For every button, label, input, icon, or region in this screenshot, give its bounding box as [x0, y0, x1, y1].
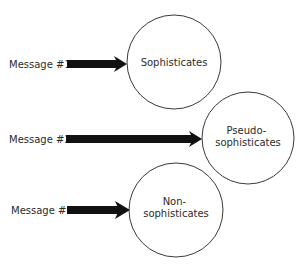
audience-diagram: Sophisticates Pseudo- sophisticates Non-…: [0, 0, 303, 265]
message-arrow-1: [67, 56, 127, 72]
arrow-shaft: [67, 60, 118, 68]
arrow-shaft: [66, 135, 194, 143]
message-label-3: Message #3: [11, 205, 73, 216]
audience-label-sophisticates: Sophisticates: [141, 57, 208, 68]
message-label-1: Message #1: [9, 59, 71, 70]
message-arrow-3: [67, 201, 130, 219]
message-label-2: Message #2: [9, 134, 71, 145]
message-arrow-2: [66, 131, 202, 147]
arrow-shaft: [67, 206, 119, 214]
